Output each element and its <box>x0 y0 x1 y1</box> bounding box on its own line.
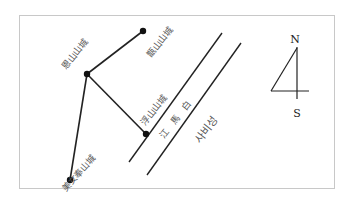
compass-south-label: S <box>293 107 301 120</box>
fortress-map: 甑山山城 恩山山城 浮山山城 美女奉山城 江 馬 白 사비성 N S <box>0 0 353 202</box>
compass-north-label: N <box>290 33 300 46</box>
river-bank-east <box>147 43 241 175</box>
compass: N S <box>271 33 309 120</box>
connection-line <box>87 74 146 134</box>
fortress-label-lower: 浮山山城 <box>138 92 169 127</box>
fortress-label-top: 甑山山城 <box>144 24 175 59</box>
city-label: 사비성 <box>192 114 221 146</box>
connection-line <box>87 31 143 74</box>
fortress-marker-lower <box>143 131 149 137</box>
fortress-marker-top <box>140 28 146 34</box>
fortress-label-middle: 恩山山城 <box>60 37 90 72</box>
fortress-label-bottom: 美女奉山城 <box>59 153 97 194</box>
compass-hypotenuse <box>271 48 297 91</box>
river-bank-west <box>129 33 222 162</box>
fortress-marker-middle <box>84 71 90 77</box>
map-frame <box>20 16 335 189</box>
